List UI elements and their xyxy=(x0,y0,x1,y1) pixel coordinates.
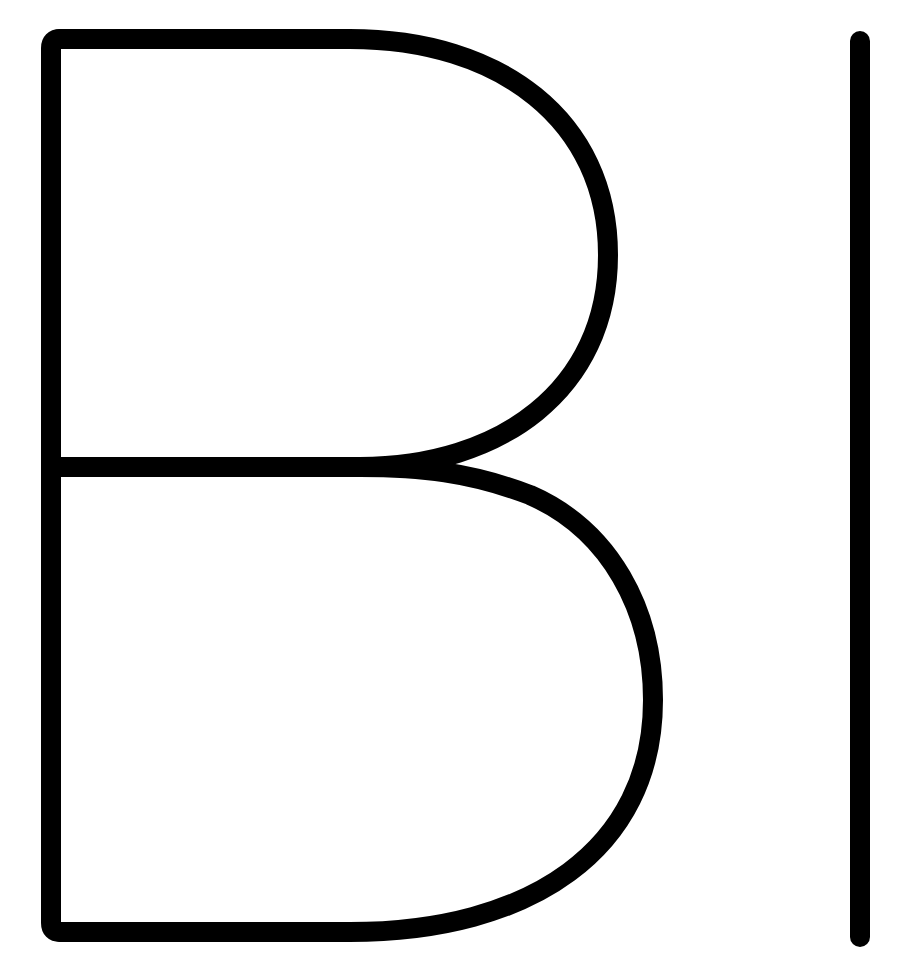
letter-b-glyph xyxy=(51,39,653,932)
logo-graphic xyxy=(0,0,905,977)
letter-b-upper-bowl xyxy=(51,39,608,467)
letter-b-lower-bowl xyxy=(60,467,653,932)
letter-b-spine xyxy=(51,39,60,932)
bi-logo: BI xyxy=(0,0,905,977)
